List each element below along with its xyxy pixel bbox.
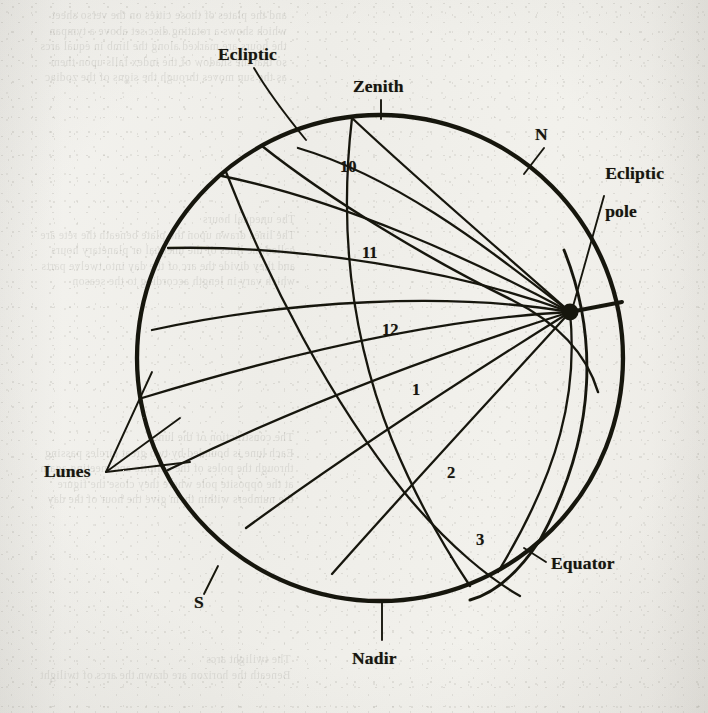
lune-arc-1 — [352, 118, 570, 312]
label-zenith: Zenith — [353, 76, 404, 97]
hour-number-10: 10 — [340, 157, 357, 177]
label-ecliptic-pole-line1: Ecliptic — [605, 163, 664, 183]
label-ecliptic: Ecliptic — [218, 44, 277, 65]
label-nadir: Nadir — [352, 648, 397, 669]
label-equator: Equator — [551, 553, 615, 574]
ecliptic-pole-node — [562, 304, 579, 321]
label-lunes: Lunes — [44, 461, 91, 482]
hour-number-12: 12 — [382, 320, 399, 340]
lune-arc-3 — [222, 176, 570, 312]
lune-arc-2 — [298, 148, 570, 312]
label-ecliptic-pole-line2: pole — [605, 201, 637, 221]
hour-number-2: 2 — [447, 463, 455, 483]
hour-number-1: 1 — [412, 380, 420, 400]
label-ecliptic-pole: Ecliptic pole — [596, 145, 664, 221]
hour-number-3: 3 — [476, 530, 484, 550]
sphere-limb — [137, 115, 623, 601]
label-north: N — [535, 124, 548, 145]
celestial-sphere-figure — [0, 0, 708, 713]
lune-arc-5 — [152, 301, 570, 330]
label-south: S — [194, 592, 204, 613]
hour-number-11: 11 — [362, 243, 378, 263]
south-leader — [204, 566, 218, 594]
lune-arc-6 — [142, 312, 570, 398]
ecliptic-leader — [254, 68, 306, 140]
